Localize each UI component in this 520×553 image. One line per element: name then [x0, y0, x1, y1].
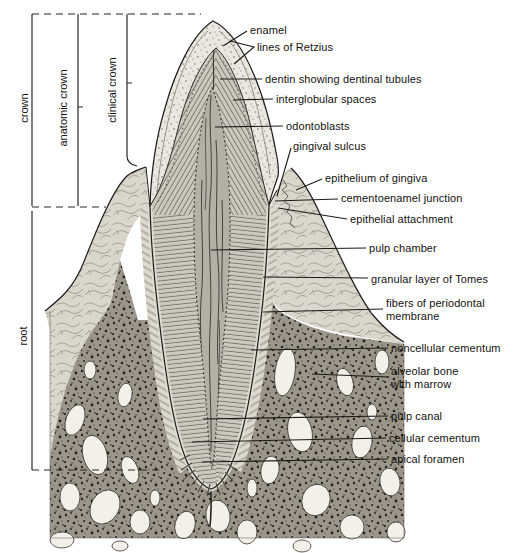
label-pulp-chamber: pulp chamber	[369, 242, 437, 255]
label-alveolar-bone-with-marrow: alveolar bone with marrow	[391, 365, 473, 390]
bracket-anatomic-crown	[78, 14, 83, 206]
label-fibers-of-periodontal-membrane: fibers of periodontal membrane	[386, 297, 498, 322]
label-epithelium-of-gingiva: epithelium of gingiva	[325, 172, 427, 185]
label-root: root	[17, 327, 29, 346]
label-noncellular-cementum: noncellular cementum	[391, 342, 501, 355]
label-apical-foramen: apical foramen	[391, 453, 465, 466]
label-lines-of-retzius: lines of Retzius	[257, 41, 333, 54]
bracket-clinical-crown	[127, 14, 137, 166]
label-crown: crown	[18, 93, 30, 122]
crown-center-streak	[213, 50, 214, 90]
label-enamel: enamel	[250, 24, 287, 37]
label-cellular-cementum: cellular cementum	[389, 432, 480, 445]
label-odontoblasts: odontoblasts	[286, 120, 350, 133]
label-dentin-tubules: dentin showing dentinal tubules	[265, 73, 422, 86]
label-gingival-sulcus: gingival sulcus	[293, 140, 366, 153]
label-cementoenamel-junction: cementoenamel junction	[341, 192, 462, 205]
label-epithelial-attachment: epithelial attachment	[350, 213, 453, 226]
tooth-anatomy-figure: crown anatomic crown clinical crown root…	[0, 0, 520, 553]
label-clinical-crown: clinical crown	[106, 57, 118, 122]
label-interglobular-spaces: interglobular spaces	[276, 93, 376, 106]
label-anatomic-crown: anatomic crown	[57, 69, 69, 146]
label-granular-layer-of-tomes: granular layer of Tomes	[371, 273, 488, 286]
label-pulp-canal: pulp canal	[391, 410, 442, 423]
